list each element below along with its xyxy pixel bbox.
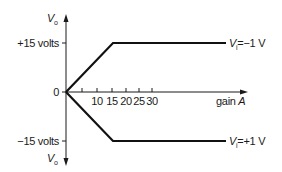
x-tick-label-25: 25 bbox=[133, 95, 145, 107]
x-axis-label: gain A bbox=[216, 95, 245, 107]
y-axis-bottom-label: Vo bbox=[47, 152, 58, 166]
x-tick-label-20: 20 bbox=[120, 95, 132, 107]
y-tick-label-minus15: −15 volts bbox=[17, 135, 59, 147]
x-axis-arrow-icon bbox=[240, 90, 248, 95]
series-vi-minus1-line bbox=[66, 43, 226, 92]
x-tick-label-10: 10 bbox=[91, 95, 103, 107]
y-tick-label-plus15: +15 volts bbox=[17, 37, 59, 49]
series-label-vi-plus1: Vi=+1 V bbox=[229, 135, 266, 149]
series-label-vi-minus1: Vi=−1 V bbox=[229, 37, 266, 51]
y-tick-label-zero: 0 bbox=[53, 86, 59, 98]
x-tick-label-30: 30 bbox=[146, 95, 158, 107]
y-axis-up-arrow-icon bbox=[64, 14, 69, 22]
y-axis-top-label: Vo bbox=[47, 12, 58, 26]
y-axis-down-arrow-icon bbox=[64, 158, 69, 166]
x-tick-label-15: 15 bbox=[106, 95, 118, 107]
gain-saturation-diagram: Vo Vo +15 volts 0 −15 volts 10 15 20 25 … bbox=[0, 0, 282, 172]
